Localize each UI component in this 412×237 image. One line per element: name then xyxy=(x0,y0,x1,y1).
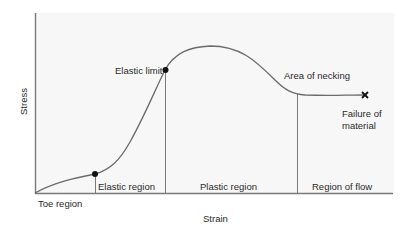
toe-region-label: Toe region xyxy=(38,198,82,209)
x-axis-label: Strain xyxy=(203,213,228,224)
elastic-limit-marker xyxy=(163,67,169,73)
plastic-region-label: Plastic region xyxy=(200,181,257,192)
elastic-region-label: Elastic region xyxy=(98,181,155,192)
necking-label: Area of necking xyxy=(284,70,350,81)
toe-end-marker xyxy=(92,171,98,177)
failure-label-2: material xyxy=(342,120,376,131)
flow-region-label: Region of flow xyxy=(312,181,372,192)
y-axis-label: Stress xyxy=(18,88,29,115)
stress-strain-diagram: Elastic limit Area of necking Failure of… xyxy=(0,0,412,237)
elastic-limit-label: Elastic limit xyxy=(115,65,163,76)
failure-label-1: Failure of xyxy=(342,108,382,119)
plot-background xyxy=(36,13,394,193)
